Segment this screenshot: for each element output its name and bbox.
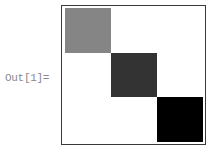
- heatmap-cell-r3-c1: [65, 97, 111, 142]
- array-plot-grid: [65, 8, 203, 142]
- heatmap-cell-r2-c2: [111, 53, 157, 98]
- heatmap-cell-r1-c2: [111, 8, 157, 53]
- heatmap-cell-r3-c3: [157, 97, 203, 142]
- heatmap-cell-r3-c2: [111, 97, 157, 142]
- heatmap-cell-r2-c3: [157, 53, 203, 98]
- heatmap-cell-r1-c1: [65, 8, 111, 53]
- heatmap-cell-r2-c1: [65, 53, 111, 98]
- heatmap-cell-r1-c3: [157, 8, 203, 53]
- output-cell-label: Out[1]=: [5, 72, 49, 84]
- array-plot: [61, 5, 206, 145]
